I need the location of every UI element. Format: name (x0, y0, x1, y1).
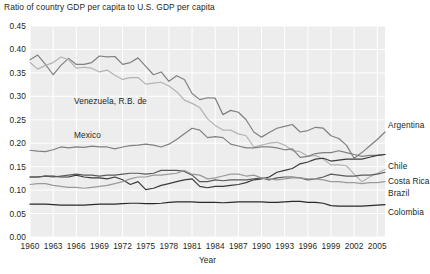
y-tick-label: 0.30 (0, 91, 26, 101)
series-right-label: Colombia (388, 207, 424, 217)
x-tick-label: 1966 (63, 241, 89, 251)
x-axis-title: Year (178, 255, 238, 265)
series-right-label: Chile (388, 161, 407, 171)
y-tick-label: 0.35 (0, 68, 26, 78)
x-tick-label: 1963 (40, 241, 66, 251)
x-tick-label: 1981 (179, 241, 205, 251)
series-right-label: Brazil (388, 188, 409, 198)
x-tick-label: 1969 (86, 241, 112, 251)
y-tick-label: 0.20 (0, 138, 26, 148)
x-tick-label: 1975 (133, 241, 159, 251)
x-tick-label: 2005 (364, 241, 390, 251)
series-inline-label: Mexico (74, 130, 101, 140)
y-tick-label: 0.45 (0, 21, 26, 31)
x-tick-label: 1996 (295, 241, 321, 251)
x-tick-label: 1960 (17, 241, 43, 251)
x-tick-label: 1990 (249, 241, 275, 251)
y-tick-label: 0.25 (0, 115, 26, 125)
x-tick-label: 1972 (110, 241, 136, 251)
x-tick-label: 1978 (156, 241, 182, 251)
series-inline-label: Venezuela, R.B. de (74, 96, 147, 106)
y-tick-label: 0.15 (0, 162, 26, 172)
series-right-label: Costa Rica (388, 176, 430, 186)
x-tick-label: 1984 (202, 241, 228, 251)
x-tick-label: 1993 (272, 241, 298, 251)
x-tick-label: 1987 (225, 241, 251, 251)
series-right-label: Argentina (388, 120, 424, 130)
x-tick-label: 2002 (341, 241, 367, 251)
y-tick-label: 0.40 (0, 44, 26, 54)
x-tick-label: 1999 (318, 241, 344, 251)
source-note (4, 266, 244, 274)
y-tick-label: 0.05 (0, 209, 26, 219)
y-tick-label: 0.10 (0, 185, 26, 195)
